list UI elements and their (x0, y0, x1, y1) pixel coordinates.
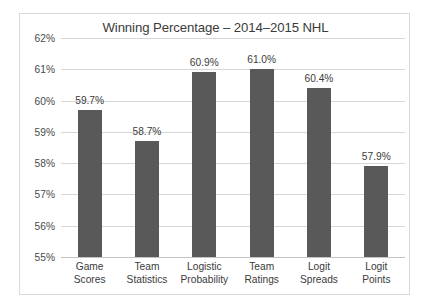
y-tick-label: 59% (35, 126, 55, 137)
y-tick-label: 62% (35, 33, 55, 44)
y-tick-label: 58% (35, 158, 55, 169)
bar-slot: 59.7% (61, 38, 118, 257)
y-tick-label: 57% (35, 189, 55, 200)
bar-slot: 58.7% (118, 38, 175, 257)
bar[interactable] (192, 72, 216, 257)
x-tick-label: TeamRatings (233, 261, 290, 286)
y-tick-label: 55% (35, 252, 55, 263)
x-tick-label: LogitPoints (348, 261, 405, 286)
y-tick-label: 61% (35, 64, 55, 75)
bar-slot: 57.9% (348, 38, 405, 257)
x-tick-label: LogitSpreads (290, 261, 347, 286)
y-tick-label: 60% (35, 95, 55, 106)
bar-value-label: 58.7% (133, 126, 162, 137)
bar-value-label: 60.9% (190, 57, 219, 68)
bar-value-label: 60.4% (305, 73, 334, 84)
bar[interactable] (364, 166, 388, 257)
bar-slot: 61.0% (233, 38, 290, 257)
bar-value-label: 57.9% (362, 151, 391, 162)
gridline (61, 257, 405, 258)
bar[interactable] (250, 69, 274, 257)
x-tick-label: TeamStatistics (118, 261, 175, 286)
y-tick-label: 56% (35, 220, 55, 231)
x-tick-label: GameScores (61, 261, 118, 286)
plot-area: 62%61%60%59%58%57%56%55% 59.7%58.7%60.9%… (61, 38, 405, 257)
bar-value-label: 61.0% (247, 54, 276, 65)
bar[interactable] (78, 110, 102, 257)
bar-slot: 60.9% (176, 38, 233, 257)
x-axis-labels: GameScoresTeamStatisticsLogisticProbabil… (61, 261, 405, 295)
bar-slot: 60.4% (290, 38, 347, 257)
bar[interactable] (135, 141, 159, 257)
chart-frame: Winning Percentage – 2014–2015 NHL 62%61… (19, 13, 410, 295)
bar-value-label: 59.7% (75, 95, 104, 106)
x-tick-label: LogisticProbability (176, 261, 233, 286)
bar[interactable] (307, 88, 331, 257)
bar-series: 59.7%58.7%60.9%61.0%60.4%57.9% (61, 38, 405, 257)
chart-title: Winning Percentage – 2014–2015 NHL (20, 20, 411, 35)
